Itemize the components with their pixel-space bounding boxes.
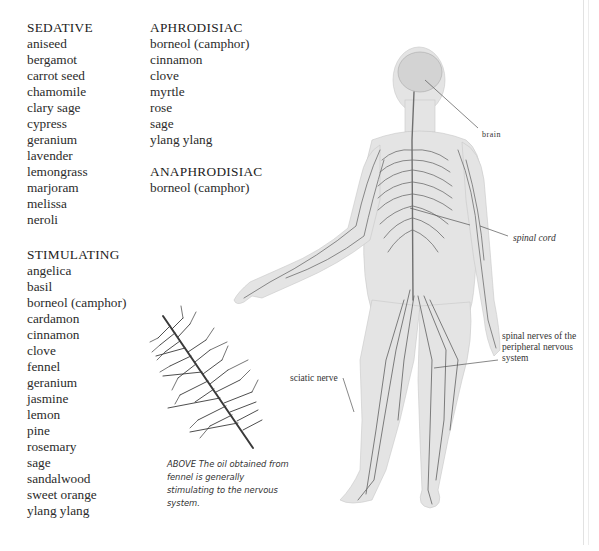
sciatic-nerve-label: sciatic nerve (290, 373, 338, 384)
illustrations (0, 0, 599, 551)
page-edge-divider (583, 0, 589, 545)
fennel-sprig-illustration (150, 306, 262, 448)
nervous-system-body-illustration (234, 47, 508, 508)
brain-shape (398, 52, 442, 92)
fennel-caption: ABOVE The oil obtained from fennel is ge… (167, 458, 292, 510)
spinal-cord-label: spinal cord (513, 233, 556, 244)
brain-label: brain (482, 129, 501, 140)
spinal-nerves-label: spinal nerves of the peripheral nervous … (502, 331, 592, 364)
